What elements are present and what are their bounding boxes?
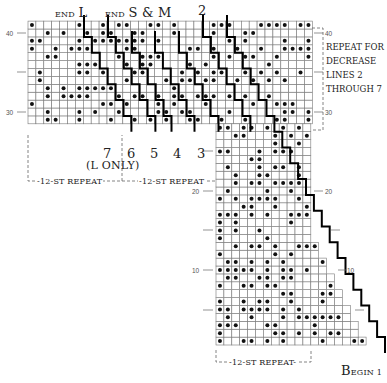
note-line: REPEAT FOR [326,40,384,54]
row-tick-40-left: 40 [6,30,13,37]
end-sm-label: END S & M [105,5,172,20]
row-tick-20-left: 20 [192,188,199,195]
row-tick-20-right: 20 [325,188,332,195]
end-l-label: END L [55,5,87,20]
begin-1-label: BEGIN 1 [341,363,382,378]
line-2-label: 2 [198,3,206,18]
repeat-note: REPEAT FOR DECREASE LINES 2 THROUGH 7 [326,40,384,96]
row-tick-30-right: 30 [325,109,332,116]
repeat-bottom-label: -12-ST REPEAT- [228,358,297,367]
repeat-left-label: -12-ST REPEAT [36,177,103,186]
line-4-label: 4 [173,146,181,161]
row-tick-40-right: 40 [325,30,332,37]
row-tick-10-right: 10 [347,267,354,274]
row-tick-30-left: 30 [6,109,13,116]
line-3-label: 3 [197,146,205,161]
note-line: LINES 2 [326,68,384,82]
repeat-mid-label: -12-ST REPEAT [138,177,205,186]
line-5-label: 5 [150,146,158,161]
note-line: THROUGH 7 [326,82,384,96]
line-6-label: 6 [127,146,135,161]
row-tick-10-left: 10 [192,267,199,274]
note-line: DECREASE [326,54,384,68]
